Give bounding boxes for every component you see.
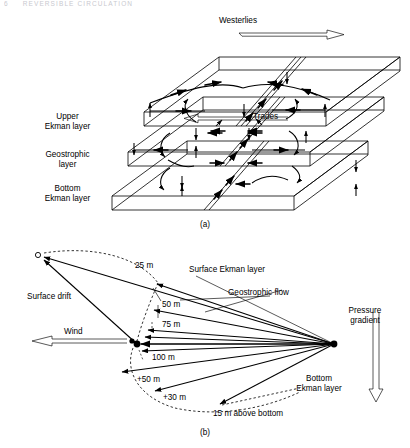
depth-15m-above-bottom-label: 15 m above bottom — [213, 409, 283, 419]
wind-arrow — [32, 336, 127, 346]
surface-drift-label: Surface drift — [27, 292, 71, 302]
depth-75m-label: 75 m — [162, 320, 180, 330]
depth-100m-label: 100 m — [152, 353, 175, 363]
pressure-gradient-label-line1: Pressure — [337, 306, 393, 316]
depth-plus-30m-label: +30 m — [163, 393, 186, 403]
surface-ekman-guide — [196, 276, 334, 344]
surface-ekman-layer-label: Surface Ekman layer — [189, 265, 265, 275]
origin-o-marker — [35, 252, 40, 257]
depth-tick-marks — [139, 288, 161, 360]
bottom-ekman-layer-label-b-line2: Ekman layer — [288, 384, 350, 394]
geostrophic-flow-label: Geostrophic flow — [228, 288, 289, 298]
wind-label: Wind — [64, 327, 83, 337]
bottom-ekman-layer-label-b-line1: Bottom — [288, 374, 350, 384]
spiral-envelope-mid — [137, 283, 158, 341]
panel-b-caption: (b) — [185, 428, 225, 437]
depth-plus-50m-label: +50 m — [137, 375, 160, 385]
pressure-gradient-label-line2: gradient — [337, 316, 393, 326]
figure-ekman-circulation: 6REVERSIBLE CIRCULATION — [0, 0, 410, 448]
surface-drift-vector-2 — [44, 260, 137, 344]
depth-25m-label: 25 m — [135, 261, 153, 271]
depth-50m-label: 50 m — [162, 300, 180, 310]
